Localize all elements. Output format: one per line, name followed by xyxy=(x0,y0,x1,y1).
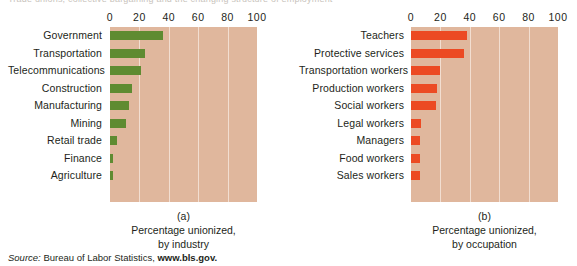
category-label: Manufacturing xyxy=(8,97,107,115)
category-label: Protective services xyxy=(299,45,409,63)
bar xyxy=(411,66,440,75)
category-label: Mining xyxy=(8,115,107,133)
cut-off-header-label: Trade unions, collective bargaining and … xyxy=(8,0,577,4)
category-label: Teachers xyxy=(299,27,409,45)
bar-row xyxy=(110,132,257,150)
figure-container: 0 20 40 60 80 100 Government Transportat… xyxy=(0,9,577,266)
bar xyxy=(110,31,163,40)
source-line: Source: Bureau of Labor Statistics, www.… xyxy=(8,252,217,263)
panel-caption-b: (b) Percentage unionized, by occupation xyxy=(411,209,558,251)
bar xyxy=(411,136,420,145)
chart-panel-b: 0 20 40 60 80 100 Teachers Protective se… xyxy=(288,9,576,231)
panels-row: 0 20 40 60 80 100 Government Transportat… xyxy=(0,9,577,231)
bar-row xyxy=(411,115,558,133)
category-label: Retail trade xyxy=(8,132,107,150)
source-label: Source: xyxy=(8,252,41,263)
category-labels-a: Government Transportation Telecommunicat… xyxy=(8,27,107,185)
panel-caption-l1: Percentage unionized, xyxy=(411,223,558,237)
bar xyxy=(110,84,132,93)
x-tick-a-20: 20 xyxy=(133,11,146,23)
plot-area-a xyxy=(110,27,257,202)
x-tick-a-80: 80 xyxy=(221,11,234,23)
bar xyxy=(411,31,467,40)
bar-row xyxy=(411,97,558,115)
bar xyxy=(110,171,113,180)
x-tick-b-0: 0 xyxy=(408,11,414,23)
x-tick-a-100: 100 xyxy=(247,11,266,23)
cut-off-header-text: Trade unions, collective bargaining and … xyxy=(0,0,577,9)
category-label: Transportation xyxy=(8,45,107,63)
bar-row xyxy=(110,115,257,133)
bar xyxy=(411,119,421,128)
category-label: Managers xyxy=(299,132,409,150)
bar-row xyxy=(110,62,257,80)
bar xyxy=(110,154,113,163)
bar-row xyxy=(411,167,558,185)
plot-area-b xyxy=(411,27,558,202)
bar-row xyxy=(411,62,558,80)
bar-row xyxy=(110,97,257,115)
x-axis-a: 0 20 40 60 80 100 xyxy=(110,11,257,25)
bar xyxy=(110,119,126,128)
bar-row xyxy=(411,132,558,150)
category-label: Construction xyxy=(8,80,107,98)
x-tick-a-0: 0 xyxy=(107,11,113,23)
bar xyxy=(411,171,420,180)
x-tick-a-40: 40 xyxy=(162,11,175,23)
x-tick-b-80: 80 xyxy=(522,11,535,23)
category-label: Finance xyxy=(8,150,107,168)
bar xyxy=(411,84,437,93)
category-label: Transportation workers xyxy=(299,62,409,80)
bar-row xyxy=(110,45,257,63)
category-label: Sales workers xyxy=(299,167,409,185)
bar-series-b xyxy=(411,27,558,202)
category-labels-b: Teachers Protective services Transportat… xyxy=(299,27,409,185)
bar xyxy=(110,136,117,145)
category-label: Agriculture xyxy=(8,167,107,185)
panel-letter-b: (b) xyxy=(411,209,558,223)
panel-caption-l1: Percentage unionized, xyxy=(110,223,257,237)
bar-row xyxy=(110,167,257,185)
category-label: Social workers xyxy=(299,97,409,115)
category-label: Production workers xyxy=(299,80,409,98)
x-tick-b-20: 20 xyxy=(434,11,447,23)
panel-caption-l2: by occupation xyxy=(411,237,558,251)
bar xyxy=(110,66,141,75)
category-label: Food workers xyxy=(299,150,409,168)
bar-row xyxy=(110,27,257,45)
category-label: Telecommunications xyxy=(8,62,107,80)
bar-row xyxy=(411,150,558,168)
bar xyxy=(411,154,420,163)
x-tick-a-60: 60 xyxy=(192,11,205,23)
x-axis-b: 0 20 40 60 80 100 xyxy=(411,11,558,25)
category-label: Legal workers xyxy=(299,115,409,133)
panel-caption-l2: by industry xyxy=(110,237,257,251)
source-url[interactable]: www.bls.gov. xyxy=(157,252,217,263)
x-tick-b-100: 100 xyxy=(548,11,567,23)
x-tick-b-60: 60 xyxy=(493,11,506,23)
bar-row xyxy=(411,80,558,98)
bar-series-a xyxy=(110,27,257,202)
bar xyxy=(411,49,464,58)
x-tick-b-40: 40 xyxy=(463,11,476,23)
category-label: Government xyxy=(8,27,107,45)
panel-letter-a: (a) xyxy=(110,209,257,223)
bar xyxy=(411,101,436,110)
bar xyxy=(110,101,129,110)
source-text: Bureau of Labor Statistics, xyxy=(43,252,154,263)
chart-panel-a: 0 20 40 60 80 100 Government Transportat… xyxy=(0,9,288,231)
bar-row xyxy=(110,150,257,168)
panel-caption-a: (a) Percentage unionized, by industry xyxy=(110,209,257,251)
bar-row xyxy=(110,80,257,98)
bar-row xyxy=(411,45,558,63)
bar-row xyxy=(411,27,558,45)
bar xyxy=(110,49,145,58)
